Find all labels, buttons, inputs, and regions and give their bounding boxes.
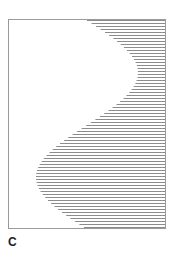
panel-label: C (8, 235, 17, 249)
hatched-s-curve-region (0, 0, 175, 253)
